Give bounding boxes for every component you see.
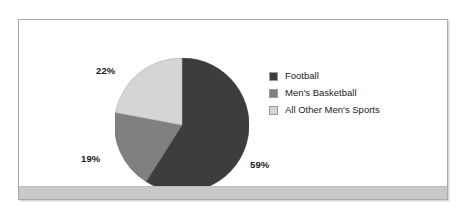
legend-swatch-all-other-mens-sports-icon [269,106,278,115]
pie-label-all-other-mens-sports-percent: 22% [96,65,115,76]
legend-label-mens-basketball: Men's Basketball [285,88,357,98]
legend-swatch-mens-basketball-icon [269,89,278,98]
legend-label-all-other-mens-sports: All Other Men's Sports [285,105,380,115]
legend-label-football: Football [285,71,319,81]
pie-label-football-percent: 59% [250,159,269,170]
figure-root: 59% 19% 22% Football Men's Basketball Al… [0,0,464,220]
legend-item-all-other-mens-sports: All Other Men's Sports [269,102,429,118]
legend-item-mens-basketball: Men's Basketball [269,85,429,101]
legend-swatch-football-icon [269,72,278,81]
pie-chart [115,58,249,192]
legend-item-football: Football [269,68,429,84]
floor-band [19,186,447,199]
pie-label-mens-basketball-percent: 19% [81,153,100,164]
legend: Football Men's Basketball All Other Men'… [269,68,429,119]
chart-frame: 59% 19% 22% Football Men's Basketball Al… [18,19,448,200]
pie-svg [115,58,249,192]
